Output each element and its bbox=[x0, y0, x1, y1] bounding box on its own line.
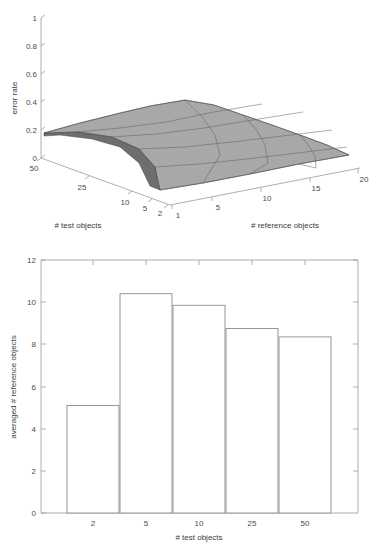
z-tick-02 bbox=[41, 127, 45, 130]
bar-x-label-5: 5 bbox=[144, 519, 149, 528]
z-tick-label-08: 0.8 bbox=[26, 42, 38, 51]
bar-y-label-4: 4 bbox=[32, 425, 37, 434]
bar-chart-svg: 12 10 8 6 4 2 0 averaged # reference obj… bbox=[0, 240, 371, 552]
y-tick-label-5: 5 bbox=[143, 204, 148, 213]
bar-y-label-8: 8 bbox=[32, 340, 37, 349]
table-row[interactable] bbox=[120, 294, 172, 513]
z-tick-label-0: 0 bbox=[33, 154, 38, 163]
table-row[interactable] bbox=[67, 406, 119, 514]
y-tick-label-25: 25 bbox=[78, 183, 87, 192]
surface-plot-svg: 1 0.8 0.6 0.4 0.2 0 error rate bbox=[0, 0, 371, 240]
surface-z-axis-title: error rate bbox=[10, 81, 19, 114]
surface-x-axis-title: # reference objects bbox=[251, 221, 319, 230]
z-tick-label-1: 1 bbox=[33, 14, 38, 23]
surface-top-face bbox=[44, 100, 349, 190]
x-tick-label-20: 20 bbox=[360, 175, 369, 184]
z-tick-08 bbox=[41, 43, 45, 46]
z-tick-1 bbox=[41, 15, 45, 18]
bar-x-label-50: 50 bbox=[301, 519, 310, 528]
surface-z-axis: 1 0.8 0.6 0.4 0.2 0 bbox=[26, 14, 45, 163]
bar-y-label-12: 12 bbox=[27, 256, 36, 265]
bar-y-label-10: 10 bbox=[27, 298, 36, 307]
y-tick-label-50: 50 bbox=[30, 164, 39, 173]
z-tick-0 bbox=[41, 155, 45, 158]
table-row[interactable] bbox=[279, 337, 331, 513]
bar-y-label-6: 6 bbox=[32, 383, 37, 392]
y-tick-5 bbox=[148, 199, 152, 202]
bar-chart-figure: 12 10 8 6 4 2 0 averaged # reference obj… bbox=[0, 240, 371, 552]
z-tick-label-02: 0.2 bbox=[26, 126, 38, 135]
y-tick-25 bbox=[85, 176, 89, 179]
surface-plot-figure: 1 0.8 0.6 0.4 0.2 0 error rate bbox=[0, 0, 371, 240]
x-tick-label-10: 10 bbox=[263, 194, 272, 203]
bar-y-label-0: 0 bbox=[32, 509, 37, 518]
z-tick-06 bbox=[41, 71, 45, 74]
y-tick-10 bbox=[128, 191, 132, 194]
bar-x-axis-title: # test objects bbox=[175, 533, 222, 542]
x-tick-label-1: 1 bbox=[176, 211, 181, 220]
bar-series bbox=[67, 294, 331, 513]
y-tick-label-2: 2 bbox=[158, 209, 163, 218]
z-tick-label-06: 0.6 bbox=[26, 70, 38, 79]
bar-x-label-25: 25 bbox=[248, 519, 257, 528]
y-tick-label-10: 10 bbox=[121, 198, 130, 207]
y-tick-2 bbox=[164, 205, 168, 208]
surface-mesh bbox=[44, 100, 349, 190]
table-row[interactable] bbox=[226, 329, 278, 514]
z-tick-04 bbox=[41, 99, 45, 102]
figure-page: 1 0.8 0.6 0.4 0.2 0 error rate bbox=[0, 0, 371, 552]
bar-y-label-2: 2 bbox=[32, 467, 37, 476]
bar-y-axis-title: averaged # reference objects bbox=[9, 335, 18, 439]
bar-x-label-10: 10 bbox=[195, 519, 204, 528]
x-tick-label-15: 15 bbox=[312, 184, 321, 193]
x-tick-label-5: 5 bbox=[216, 203, 221, 212]
surface-y-axis-title: # test objects bbox=[54, 221, 101, 230]
z-tick-label-04: 0.4 bbox=[26, 98, 38, 107]
table-row[interactable] bbox=[173, 305, 225, 513]
bar-x-label-2: 2 bbox=[91, 519, 96, 528]
y-tick-50 bbox=[37, 158, 41, 161]
